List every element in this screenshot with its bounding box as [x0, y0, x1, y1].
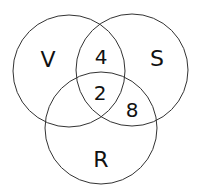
set-label-r: R	[93, 147, 108, 172]
set-label-s: S	[150, 46, 164, 71]
region-v-s-r-value: 2	[94, 81, 107, 105]
region-v-s-value: 4	[95, 45, 108, 69]
circle-v	[13, 15, 125, 127]
region-s-r-value: 8	[126, 98, 139, 122]
set-label-v: V	[40, 47, 55, 72]
venn-diagram: V S R 4 2 8	[0, 0, 197, 195]
